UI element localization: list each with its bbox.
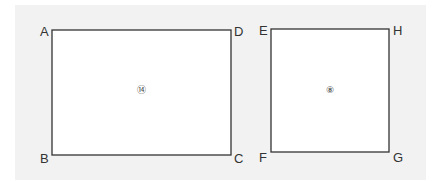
vertex-label-g: G <box>393 150 403 165</box>
vertex-label-c: C <box>234 151 243 166</box>
vertex-label-a: A <box>40 24 49 39</box>
vertex-label-h: H <box>393 23 402 38</box>
vertex-label-b: B <box>40 151 49 166</box>
vertex-label-e: E <box>259 23 268 38</box>
vertex-label-d: D <box>234 24 243 39</box>
center-label-abcd: ⑭ <box>137 85 146 95</box>
diagram-canvas: A B C D E F G H ⑭ ⑧ <box>0 0 443 181</box>
vertex-label-f: F <box>259 150 267 165</box>
center-label-efgh: ⑧ <box>326 85 334 95</box>
